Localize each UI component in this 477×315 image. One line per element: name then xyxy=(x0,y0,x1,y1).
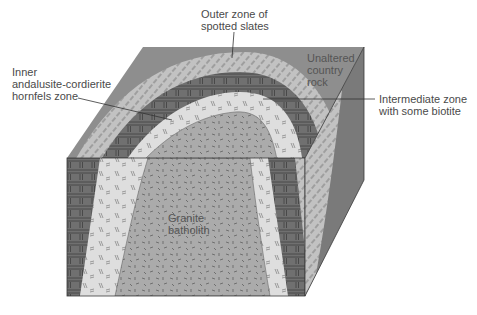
label-outer-zone: Outer zone of spotted slates xyxy=(201,8,269,32)
label-unaltered-rock: Unaltered country rock xyxy=(307,52,355,88)
label-granite-batholith: Granite batholith xyxy=(168,212,210,236)
metamorphic-zones-diagram xyxy=(0,0,477,315)
label-inner-zone: Inner andalusite-cordierite hornfels zon… xyxy=(12,66,111,102)
label-intermediate-zone: Intermediate zone with some biotite xyxy=(379,93,467,117)
